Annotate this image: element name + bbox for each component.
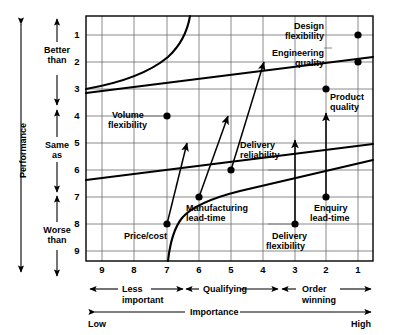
y-tick-4: 4	[70, 110, 84, 121]
x-tick-5: 5	[224, 264, 238, 275]
importance-band-qualifying-line1: Qualifying	[203, 284, 247, 294]
x-tick-6: 6	[192, 264, 206, 275]
y-tick-9: 9	[70, 245, 84, 256]
point-label-product-quality-line2: quality	[330, 102, 359, 112]
point-label-delivery-flexibility-line2: flexibility	[266, 241, 305, 251]
y-tick-7: 7	[70, 191, 84, 202]
y-tick-1: 1	[70, 29, 84, 40]
performance-band-worse-line2: than	[36, 235, 78, 245]
y-tick-2: 2	[70, 56, 84, 67]
x-axis-high-label: High	[351, 319, 371, 329]
arrow-price-cost	[167, 143, 187, 224]
x-tick-2: 2	[319, 264, 333, 275]
point-label-price-cost: Price/cost	[124, 231, 167, 241]
importance-performance-chart: Performance Better than Same as Worse th…	[0, 0, 394, 335]
point-label-delivery-flexibility-line1: Delivery	[272, 231, 307, 241]
x-tick-4: 4	[256, 264, 270, 275]
zone-boundary-appropriate-lower	[86, 144, 373, 180]
point-label-product-quality-line1: Product	[330, 92, 364, 102]
point-product-quality	[322, 85, 329, 92]
point-label-delivery-reliability-line1: Delivery	[240, 140, 275, 150]
point-label-enquiry-lead-time-line1: Enquiry	[314, 203, 348, 213]
y-axis-title: Performance	[18, 123, 28, 178]
x-tick-1: 1	[351, 264, 365, 275]
point-label-design-flexibility-line1: Design	[272, 21, 324, 31]
point-engineering-quality	[354, 58, 361, 65]
x-tick-7: 7	[160, 264, 174, 275]
y-tick-8: 8	[70, 218, 84, 229]
point-manufacturing-lead-time	[195, 193, 202, 200]
importance-band-less-important-line2: important	[122, 295, 164, 305]
plot-grid	[86, 16, 373, 261]
point-label-engineering-quality-line1: Engineering	[264, 48, 324, 58]
point-delivery-flexibility	[291, 220, 298, 227]
performance-band-same-line2: as	[36, 150, 78, 160]
point-label-manufacturing-lead-time-line1: Manufacturing	[186, 203, 248, 213]
point-label-volume-flexibility-line2: flexibility	[108, 120, 147, 130]
point-design-flexibility	[354, 31, 361, 38]
point-label-delivery-reliability-line2: reliability	[240, 150, 280, 160]
point-label-manufacturing-lead-time-line2: lead-time	[186, 213, 226, 223]
point-label-enquiry-lead-time-line2: lead-time	[310, 213, 350, 223]
performance-band-better-line1: Better	[36, 45, 78, 55]
zone-boundary-appropriate-upper	[86, 57, 373, 93]
x-axis-title: Importance	[190, 307, 239, 317]
x-tick-3: 3	[288, 264, 302, 275]
importance-band-less-important-line1: Less	[122, 284, 143, 294]
x-tick-8: 8	[127, 264, 141, 275]
point-delivery-reliability	[227, 166, 234, 173]
x-axis-low-label: Low	[88, 319, 106, 329]
point-enquiry-lead-time	[322, 193, 329, 200]
importance-band-order-winning-line2: winning	[302, 295, 336, 305]
arrow-manufacturing-lead-time	[199, 116, 228, 197]
point-price-cost	[163, 220, 170, 227]
y-tick-5: 5	[70, 137, 84, 148]
point-volume-flexibility	[163, 112, 170, 119]
point-label-engineering-quality-line2: quality	[264, 58, 324, 68]
y-tick-3: 3	[70, 83, 84, 94]
point-label-volume-flexibility-line1: Volume	[112, 110, 144, 120]
importance-band-order-winning-line1: Order	[302, 284, 327, 294]
y-tick-6: 6	[70, 164, 84, 175]
x-tick-9: 9	[95, 264, 109, 275]
point-label-design-flexibility-line2: flexibility	[268, 31, 324, 41]
data-points	[163, 31, 361, 227]
